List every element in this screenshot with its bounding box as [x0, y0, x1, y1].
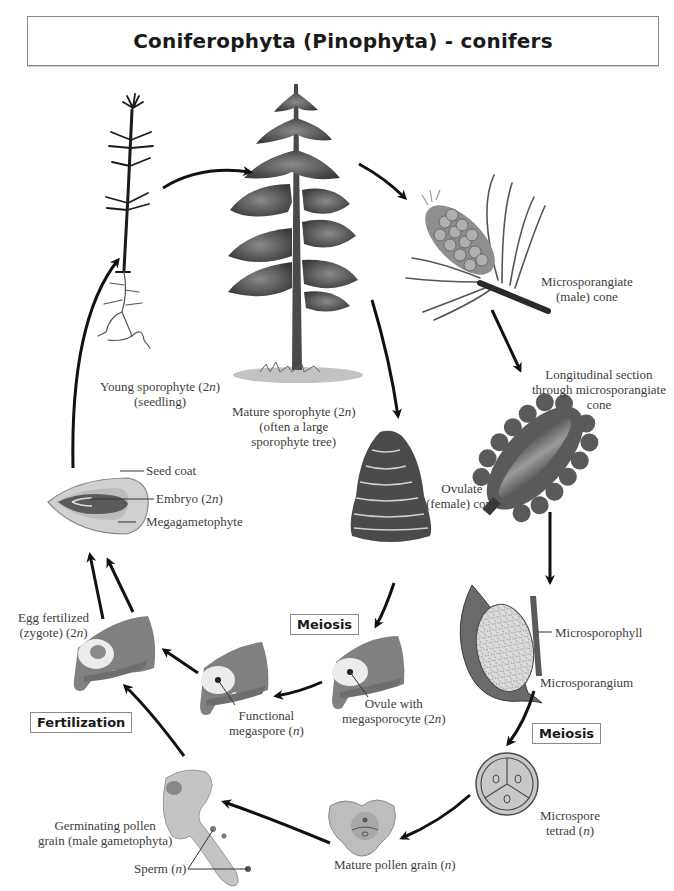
label-longitudinal-section: Longitudinal section through microsporan…	[532, 367, 666, 412]
arrow-egg-to-seed-1	[90, 555, 103, 619]
pollen-grain-illustration	[329, 800, 396, 856]
seed-illustration	[48, 478, 148, 534]
label-egg-fertilized: Egg fertilized (zygote) (2n)	[18, 610, 89, 640]
microspore-tetrad-illustration	[476, 753, 538, 815]
label-microspore-tetrad: Microspore tetrad (n)	[540, 808, 600, 838]
fertilization-box: Fertilization	[30, 712, 132, 733]
label-microsporangiate-cone: Microsporangiate (male) cone	[541, 274, 633, 304]
label-young-sporophyte: Young sporophyte (2n) (seedling)	[100, 379, 220, 409]
arrow-seedling-to-tree	[163, 170, 250, 188]
label-microsporangium: Microsporangium	[540, 675, 633, 690]
label-sperm: Sperm (n)	[134, 861, 186, 876]
male-cone-illustration	[406, 175, 548, 320]
arrow-egg-to-seed-2	[108, 560, 133, 612]
seedling-illustration	[98, 94, 153, 348]
arrow-seed-to-seedling	[73, 260, 118, 468]
arrow-female-cone-to-ovule	[376, 583, 394, 626]
arrow-megaspore-to-egg	[164, 650, 198, 673]
arrow-tetrad-to-pollen	[402, 795, 470, 838]
arrow-germinating-to-egg	[125, 686, 184, 756]
label-seed-coat: Seed coat	[146, 463, 196, 478]
label-functional-megaspore: Functional megaspore (n)	[229, 708, 304, 738]
label-microsporophyll: Microsporophyll	[555, 625, 642, 640]
microsporangium-illustration	[460, 585, 542, 703]
female-cone-illustration	[351, 431, 431, 542]
label-mature-pollen-grain: Mature pollen grain (n)	[334, 857, 456, 872]
arrow-ovule-to-megaspore	[276, 682, 322, 696]
label-ovulate-cone: Ovulate (female) cone	[426, 481, 498, 511]
mature-tree-illustration	[228, 84, 363, 383]
arrow-pollen-to-germinating	[224, 802, 330, 843]
arrow-tree-to-male-cone	[359, 164, 405, 198]
label-embryo: Embryo (2n)	[156, 491, 223, 506]
label-mature-sporophyte: Mature sporophyte (2n) (often a large sp…	[232, 404, 355, 449]
meiosis-male-box: Meiosis	[532, 723, 601, 744]
arrow-tree-to-female-cone	[372, 300, 398, 416]
label-ovule-megasporocyte: Ovule with megasporocyte (2n)	[342, 696, 446, 726]
arrow-male-cone-to-section	[492, 310, 520, 370]
meiosis-female-box: Meiosis	[290, 614, 359, 635]
label-megagametophyte: Megagametophyte	[146, 514, 243, 529]
label-germinating-pollen: Germinating pollen grain (male gametophy…	[38, 818, 172, 848]
